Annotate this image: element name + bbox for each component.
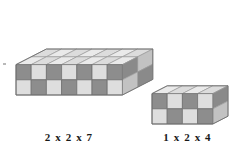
right-block-label: 1 x 2 x 4 [140, 131, 235, 143]
cube-face [198, 109, 213, 124]
cube-face [92, 80, 107, 95]
cube-face [182, 94, 197, 109]
cube-face [167, 94, 182, 109]
cube-face [77, 80, 92, 95]
cube-face [46, 80, 61, 95]
cube-face [46, 65, 61, 80]
left-block-label: 2 x 2 x 7 [0, 131, 138, 143]
cube-face [92, 65, 107, 80]
cube-face [198, 94, 213, 109]
cube-face [107, 80, 122, 95]
right-block-group [152, 86, 228, 124]
cube-face [77, 65, 92, 80]
cube-face [107, 65, 122, 80]
left-block-group [16, 49, 153, 95]
cube-face [182, 109, 197, 124]
cube-face [62, 80, 77, 95]
image-speck-artifact [3, 63, 6, 65]
cube-face [167, 109, 182, 124]
cube-face [62, 65, 77, 80]
